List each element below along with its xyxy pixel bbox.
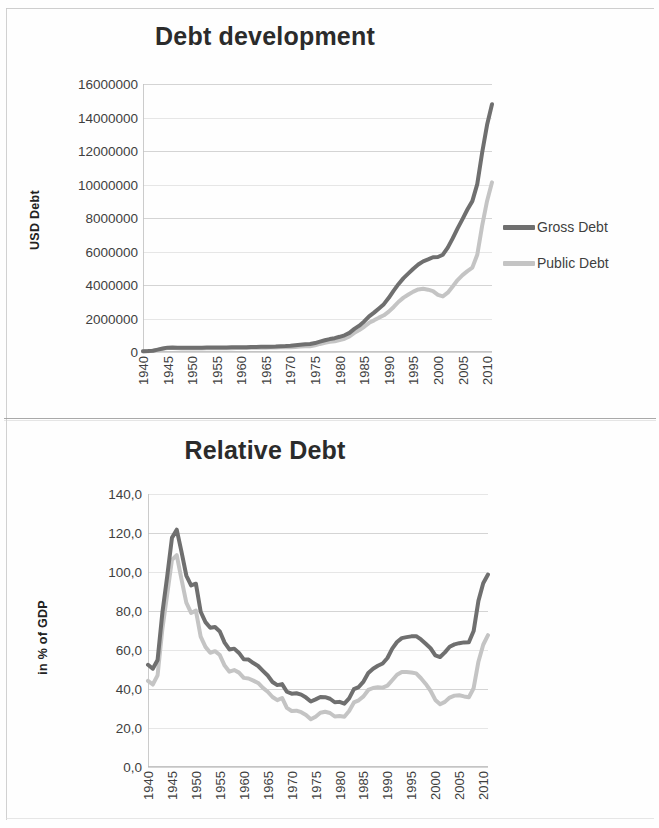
y-axis-tick-label: 8000000 (85, 211, 138, 226)
plot-area-relative-debt (148, 494, 488, 767)
scanned-page: Debt development USD Debt 16000000140000… (0, 0, 659, 828)
x-axis-tick-label: 1995 (406, 356, 421, 385)
series-lines-debt-development (143, 84, 492, 352)
gridline (148, 767, 488, 768)
series-line (148, 555, 488, 719)
y-axis-tick-label: 20,0 (116, 721, 142, 736)
x-axis-tick-label: 2010 (480, 356, 495, 385)
x-axis-tick-label: 1950 (185, 356, 200, 385)
x-axis-tick-label: 1950 (189, 771, 204, 800)
x-axis-tick-label: 1940 (141, 771, 156, 800)
y-axis-label-usd-debt: USD Debt (28, 190, 42, 250)
gridline (143, 352, 492, 353)
plot-area-debt-development (143, 84, 492, 352)
legend-item-gross-debt: Gross Debt (503, 219, 609, 235)
legend-swatch-public-debt (503, 261, 535, 266)
y-axis-tick-label: 60,0 (116, 643, 142, 658)
x-axis-tick-label: 1970 (285, 771, 300, 800)
y-axis-tick-label: 14000000 (78, 110, 138, 125)
legend-label-gross-debt: Gross Debt (537, 219, 608, 235)
series-lines-relative-debt (148, 494, 488, 767)
x-axis-tick-label: 1980 (333, 356, 348, 385)
x-axis-tick-label: 1990 (380, 771, 395, 800)
x-axis-tick-label: 1955 (210, 356, 225, 385)
y-axis-tick-label: 12000000 (78, 144, 138, 159)
x-axis-tick-label: 1945 (165, 771, 180, 800)
y-axis-tick-label: 10000000 (78, 177, 138, 192)
x-axis-tick-label: 1955 (213, 771, 228, 800)
y-axis-tick-label: 100,0 (108, 565, 142, 580)
legend-item-public-debt: Public Debt (503, 255, 609, 271)
chart-title-relative-debt: Relative Debt (0, 436, 530, 465)
x-axis-tick-label: 1990 (382, 356, 397, 385)
series-line (143, 104, 492, 351)
x-axis-tick-label: 1940 (136, 356, 151, 385)
x-axis-tick-label: 1970 (283, 356, 298, 385)
y-axis-tick-label: 140,0 (108, 487, 142, 502)
y-axis-tick-label: 40,0 (116, 682, 142, 697)
y-axis-tick-label: 4000000 (85, 278, 138, 293)
legend-swatch-gross-debt (503, 225, 535, 230)
x-axis-tick-label: 1985 (357, 356, 372, 385)
x-axis-tick-label: 1975 (308, 356, 323, 385)
y-axis-tick-label: 80,0 (116, 604, 142, 619)
x-axis-tick-label: 1980 (333, 771, 348, 800)
y-axis-tick-label: 2000000 (85, 311, 138, 326)
y-axis-label-in-percent-of-gdp: in % of GDP (36, 600, 50, 675)
x-axis-tick-label: 1985 (356, 771, 371, 800)
y-axis-tick-label: 0,0 (123, 760, 142, 775)
legend-debt-development: Gross Debt Public Debt (503, 219, 609, 291)
x-axis-tick-label: 1965 (261, 771, 276, 800)
series-line (143, 182, 492, 351)
chart-panel-debt-development: Debt development USD Debt 16000000140000… (0, 0, 659, 414)
x-axis-tick-label: 2010 (476, 771, 491, 800)
x-axis-tick-label: 1945 (161, 356, 176, 385)
y-axis-tick-label: 6000000 (85, 244, 138, 259)
x-axis-tick-label: 1975 (309, 771, 324, 800)
x-axis-tick-label: 2005 (452, 771, 467, 800)
x-axis-tick-label: 2000 (428, 771, 443, 800)
y-axis-tick-label: 120,0 (108, 526, 142, 541)
chart-title-debt-development: Debt development (0, 22, 530, 51)
x-axis-tick-label: 1995 (404, 771, 419, 800)
y-axis-tick-label: 16000000 (78, 77, 138, 92)
x-axis-tick-label: 1960 (234, 356, 249, 385)
chart-panel-relative-debt: Relative Debt 140,0120,0100,080,060,040,… (0, 414, 659, 828)
legend-label-public-debt: Public Debt (537, 255, 609, 271)
x-axis-tick-label: 2005 (456, 356, 471, 385)
x-axis-tick-label: 2000 (431, 356, 446, 385)
x-axis-tick-label: 1960 (237, 771, 252, 800)
x-axis-tick-label: 1965 (259, 356, 274, 385)
